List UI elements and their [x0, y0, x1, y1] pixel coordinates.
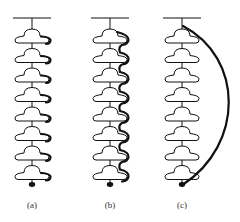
insulator-disc [165, 107, 199, 121]
flashover-arc-path [183, 26, 229, 185]
panel-label-c: (c) [177, 200, 187, 210]
conductor-clamp [107, 182, 113, 187]
insulator-string-a: (a) [13, 18, 51, 210]
conductor-clamp [29, 182, 35, 187]
insulator-disc [93, 107, 127, 121]
insulator-disc [165, 127, 199, 141]
insulator-disc [165, 49, 199, 63]
insulator-disc [165, 146, 199, 160]
insulator-disc [93, 127, 127, 141]
insulator-disc [93, 166, 127, 180]
insulator-disc [93, 88, 127, 102]
insulator-disc [165, 29, 199, 43]
insulator-string-b: (b) [91, 18, 129, 210]
insulator-disc [93, 29, 127, 43]
panel-label-a: (a) [27, 200, 37, 210]
insulator-disc [165, 88, 199, 102]
insulator-string-c: (c) [163, 18, 229, 210]
insulator-disc [93, 49, 127, 63]
panel-label-b: (b) [105, 200, 116, 210]
insulator-disc [93, 68, 127, 82]
insulator-disc [165, 68, 199, 82]
insulator-diagram: (a)(b)(c) [0, 0, 240, 222]
insulator-disc [93, 146, 127, 160]
